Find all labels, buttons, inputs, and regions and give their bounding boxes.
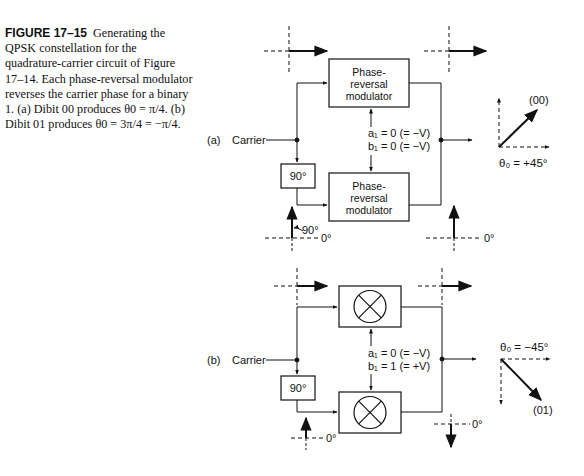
panel-a-carrier-label: Carrier xyxy=(232,134,266,146)
phase-shifter-label: 90° xyxy=(290,170,307,182)
theta-b-label: θ₀ = −45° xyxy=(500,341,548,353)
bottom-modulator-line3: modulator xyxy=(346,204,393,216)
panel-a-label: (a) xyxy=(207,134,220,146)
phase-shifter-label-b: 90° xyxy=(290,382,307,394)
b1-value: b₁ = 0 (= −V) xyxy=(368,140,430,152)
bottom-modulator-line1: Phase- xyxy=(352,180,386,192)
a1-value: a₁ = 0 (= −V) xyxy=(368,127,430,139)
top-modulator-line2: reversal xyxy=(350,78,387,90)
a1-value-b: a₁ = 0 (= −V) xyxy=(368,347,430,359)
dibit-00-label: (00) xyxy=(529,94,549,106)
panel-b xyxy=(266,268,550,450)
top-modulator-line1: Phase- xyxy=(352,66,386,78)
dibit-01-label: (01) xyxy=(533,404,553,416)
qpsk-diagram: (a) Carrier Phase- reversal modulator Ph… xyxy=(0,0,584,476)
panel-b-label: (b) xyxy=(207,354,220,366)
phasor-0-right-label-b: 0° xyxy=(472,418,483,430)
phasor-0-left-label: 0° xyxy=(321,232,332,244)
theta-a-label: θ₀ = +45° xyxy=(499,157,547,169)
panel-a-labels: (a) Carrier Phase- reversal modulator Ph… xyxy=(207,66,549,244)
phasor-0-left-label-b: 0° xyxy=(326,432,337,444)
top-modulator-line3: modulator xyxy=(346,90,393,102)
bottom-modulator-line2: reversal xyxy=(350,192,387,204)
b1-value-b: b₁ = 1 (= +V) xyxy=(368,360,430,372)
phasor-90-label: 90° xyxy=(302,224,319,236)
phasor-0-right-label: 0° xyxy=(484,232,495,244)
panel-b-carrier-label: Carrier xyxy=(232,354,266,366)
